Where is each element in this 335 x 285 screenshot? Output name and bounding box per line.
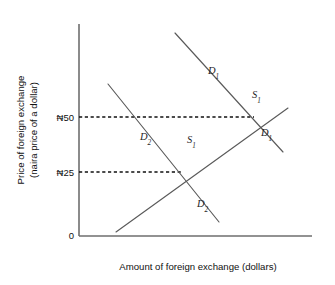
- x-axis-title: Amount of foreign exchange (dollars): [119, 261, 276, 272]
- y-tick-label-25: ₦25: [57, 167, 74, 178]
- curve-label-d1-upper: D1: [207, 65, 219, 81]
- curve-label-s1-lower: S1: [187, 134, 196, 150]
- curve-label-s1-upper: S1: [252, 89, 261, 105]
- curve-label-d1-lower: D1: [260, 127, 272, 143]
- curve-label-d2-upper: D2: [139, 131, 152, 147]
- curve-label-d2-lower: D2: [196, 198, 209, 214]
- figure-container: D1 D1 S1 S1 D2 D2 ₦50 ₦25 0 Price of for…: [0, 0, 335, 285]
- economics-supply-demand-chart: D1 D1 S1 S1 D2 D2 ₦50 ₦25 0 Price of for…: [0, 0, 335, 285]
- y-tick-label-50: ₦50: [57, 112, 74, 123]
- y-axis-title-line2: (naira price of a dollar): [28, 82, 39, 178]
- origin-label: 0: [69, 230, 74, 241]
- y-axis-title-line1: Price of foreign exchange: [15, 76, 26, 185]
